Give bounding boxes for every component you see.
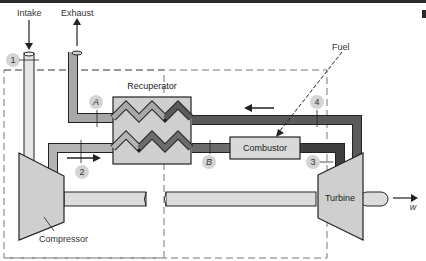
work-arrow-icon (411, 194, 418, 202)
intake-label: Intake (17, 8, 42, 18)
svg-text:3: 3 (310, 157, 315, 167)
gas-turbine-diagram: Recuperator Combustor Fuel Compressor Tu… (0, 0, 426, 261)
svg-text:1: 1 (10, 55, 15, 65)
turbine-label: Turbine (325, 193, 355, 203)
fuel-label: Fuel (332, 42, 350, 52)
svg-text:2: 2 (79, 167, 84, 177)
intake-arrow-icon (25, 20, 33, 50)
exhaust-label: Exhaust (61, 8, 94, 18)
state-point-3: 3 (306, 155, 333, 169)
top-rule (0, 0, 426, 3)
recuperator: Recuperator (113, 81, 191, 164)
svg-text:4: 4 (314, 97, 319, 107)
flow-arrow-left-icon (244, 104, 274, 112)
exhaust-arrow-icon (73, 18, 81, 46)
svg-text:B: B (206, 157, 212, 167)
compressor-label: Compressor (39, 234, 88, 244)
svg-text:A: A (92, 97, 99, 107)
turbine: Turbine (318, 153, 363, 240)
combustor: Combustor (230, 137, 300, 159)
combustor-label: Combustor (243, 143, 287, 153)
work-label: w (410, 202, 417, 212)
work-output: w (393, 194, 418, 212)
flow-arrow-right-icon (67, 154, 101, 162)
edge-mark (422, 10, 426, 18)
recuperator-label: Recuperator (127, 81, 177, 91)
